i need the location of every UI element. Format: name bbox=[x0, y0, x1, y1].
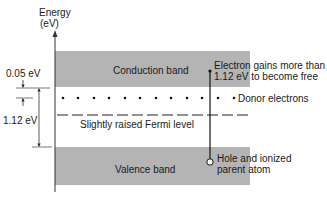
hole-circle bbox=[207, 159, 213, 165]
free-electron-dot bbox=[208, 69, 211, 72]
axis-label-energy: Energy bbox=[39, 7, 71, 18]
arrow-up-icon bbox=[21, 98, 24, 102]
electron-annotation-line2: 1.12 eV to become free bbox=[214, 71, 318, 82]
fermi-level-label: Slightly raised Fermi level bbox=[80, 119, 194, 130]
arrow-down-icon bbox=[37, 144, 40, 148]
donor-electrons-label: Donor electrons bbox=[238, 93, 309, 104]
axis-label-unit: (eV) bbox=[40, 18, 59, 29]
conduction-band-label: Conduction band bbox=[113, 65, 189, 76]
hole-annotation-line1: Hole and ionized bbox=[217, 153, 292, 164]
hole-annotation-line2: parent atom bbox=[217, 164, 270, 175]
donor-gap-label: 0.05 eV bbox=[6, 68, 40, 79]
valence-band-label: Valence band bbox=[115, 164, 175, 175]
axis-arrow-icon bbox=[53, 30, 58, 37]
electron-annotation-line1: Electron gains more than bbox=[214, 60, 325, 71]
arrow-up-icon bbox=[37, 88, 40, 92]
arrow-down-icon bbox=[21, 85, 24, 89]
donor-dots bbox=[62, 97, 236, 100]
band-gap-label: 1.12 eV bbox=[2, 115, 38, 126]
